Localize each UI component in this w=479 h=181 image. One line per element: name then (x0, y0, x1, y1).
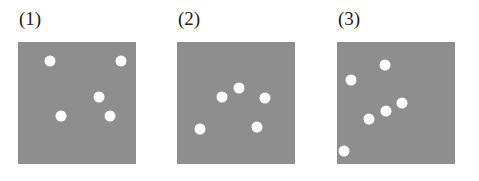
dot (260, 93, 271, 104)
dot (381, 106, 392, 117)
dot (346, 75, 357, 86)
dot (234, 83, 245, 94)
dot (252, 122, 263, 133)
panel-label: (2) (178, 9, 200, 28)
panel-3: (3) (0, 0, 160, 181)
dot-square (177, 42, 295, 164)
dot (195, 124, 206, 135)
panel-label: (3) (338, 9, 360, 28)
dot (339, 146, 350, 157)
dot (380, 60, 391, 71)
dot (397, 98, 408, 109)
dot (364, 114, 375, 125)
dot (217, 92, 228, 103)
dot-square (337, 42, 455, 164)
